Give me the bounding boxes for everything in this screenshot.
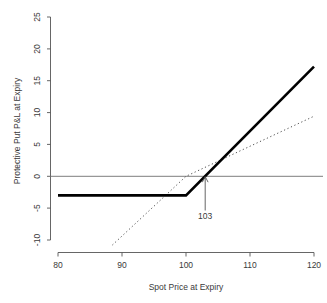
chart-figure: 25 20 15 10 5 0 -5 -10 Protective Put P&… [0, 0, 327, 303]
x-tick-label-110: 110 [243, 260, 257, 270]
y-tick-label-5: 5 [32, 142, 42, 147]
x-axis: 80 90 100 110 120 Spot Price at Expiry [53, 253, 321, 293]
y-axis: 25 20 15 10 5 0 -5 -10 Protective Put P&… [12, 12, 51, 246]
y-tick-label-neg5: -5 [32, 204, 42, 212]
y-tick-label-25: 25 [32, 12, 42, 22]
breakeven-label: 103 [198, 211, 212, 221]
x-axis-title: Spot Price at Expiry [149, 282, 224, 292]
x-tick-label-120: 120 [307, 260, 321, 270]
y-axis-title: Protective Put P&L at Expiry [12, 77, 22, 184]
chart-canvas: 25 20 15 10 5 0 -5 -10 Protective Put P&… [0, 0, 327, 303]
x-tick-label-90: 90 [117, 260, 127, 270]
y-tick-label-0: 0 [32, 174, 42, 179]
y-tick-label-20: 20 [32, 44, 42, 54]
series-long-stock-line [112, 116, 314, 245]
y-tick-label-15: 15 [32, 76, 42, 86]
y-tick-label-neg10: -10 [32, 234, 42, 247]
breakeven-annotation: 103 [198, 177, 212, 221]
x-tick-label-100: 100 [179, 260, 193, 270]
x-tick-label-80: 80 [53, 260, 63, 270]
y-tick-label-10: 10 [32, 108, 42, 118]
